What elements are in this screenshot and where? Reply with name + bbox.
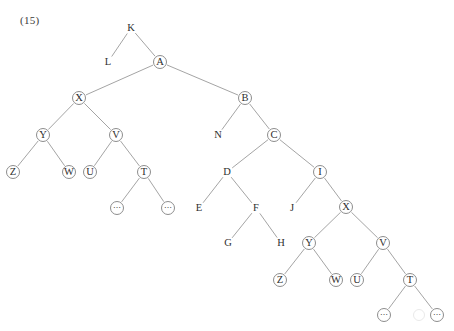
tree-node-c: C xyxy=(267,128,281,142)
tree-node-z2: Z xyxy=(273,273,287,287)
tree-node-label: W xyxy=(331,274,341,285)
tree-edge-x1-v1 xyxy=(85,104,111,130)
tree-node-label: D xyxy=(223,166,231,177)
tree-edge-a-x1 xyxy=(86,65,152,95)
tree-node-label: L xyxy=(105,56,111,67)
tree-edge-v1-u1 xyxy=(95,142,112,166)
tree-edge-x1-y1 xyxy=(49,104,74,130)
tree-edge-c-i xyxy=(280,140,314,167)
tree-edge-c-d xyxy=(233,140,268,168)
tree-edge-k-l xyxy=(112,34,127,56)
tree-node-j: J xyxy=(284,201,300,215)
tree-node-x2: X xyxy=(339,200,353,214)
tree-node-label: E xyxy=(196,202,202,213)
tree-node-h: H xyxy=(273,236,289,250)
tree-node-u1: U xyxy=(83,165,97,179)
tree-node-v2: V xyxy=(376,236,390,250)
tree-edge-t1-dot1 xyxy=(122,178,139,201)
tree-edge-f-g xyxy=(232,213,251,237)
tree-node-label: U xyxy=(86,166,94,177)
tree-node-w2: W xyxy=(329,273,343,287)
tree-node-label: Z xyxy=(277,274,283,285)
tree-edge-y2-w2 xyxy=(314,249,332,273)
tree-node-dot1: ⋯ xyxy=(110,201,124,215)
tree-node-label: B xyxy=(241,92,248,103)
tree-node-label: Z xyxy=(10,166,16,177)
tree-node-dot2: ⋯ xyxy=(161,201,175,215)
tree-node-dot4: ⋯ xyxy=(430,308,444,322)
tree-edge-b-n xyxy=(222,104,240,129)
tree-edge-v2-t2 xyxy=(388,249,406,273)
tree-node-u2: U xyxy=(350,273,364,287)
tree-diagram-figure: (15) KLAXBYVNCZWUTDI⋯⋯EFJXGHYVZWUT⋯⋯ xyxy=(0,0,454,331)
tree-node-n: N xyxy=(210,128,226,142)
tree-node-label: Y xyxy=(305,237,313,248)
tree-node-label: Y xyxy=(39,129,47,140)
tree-node-label: X xyxy=(342,201,350,212)
tree-node-label: ⋯ xyxy=(380,311,388,319)
tree-edge-b-c xyxy=(250,104,269,128)
tree-node-a: A xyxy=(153,55,167,69)
tree-edge-y1-w1 xyxy=(48,142,65,166)
tree-node-t2: T xyxy=(403,273,417,287)
tree-node-v1: V xyxy=(109,128,123,142)
tree-node-x1: X xyxy=(72,91,86,105)
tree-edge-d-f xyxy=(231,177,251,202)
tree-edge-v2-u2 xyxy=(362,250,379,274)
tree-node-label: T xyxy=(407,274,413,285)
tree-edge-k-a xyxy=(136,33,155,56)
tree-node-b: B xyxy=(238,91,252,105)
tree-node-w1: W xyxy=(62,165,76,179)
tree-node-label: I xyxy=(318,166,322,177)
tree-node-label: C xyxy=(270,129,277,140)
tree-node-t1: T xyxy=(137,165,151,179)
tree-node-label: X xyxy=(75,92,83,103)
tree-node-label: U xyxy=(353,274,361,285)
tree-node-label: V xyxy=(112,129,120,140)
tree-node-label: V xyxy=(379,237,387,248)
tree-edge-f-h xyxy=(260,214,277,238)
tree-node-d: D xyxy=(219,165,235,179)
tree-node-label: F xyxy=(253,202,259,213)
tree-edge-x2-v2 xyxy=(352,213,378,238)
tree-node-k: K xyxy=(123,21,139,35)
tree-edge-i-j xyxy=(296,178,315,202)
tree-edge-y1-z1 xyxy=(18,141,38,166)
tree-node-label: ⋯ xyxy=(164,204,172,212)
tree-node-e: E xyxy=(191,201,207,215)
tree-node-label: ⋯ xyxy=(433,311,441,319)
tree-node-y1: Y xyxy=(36,128,50,142)
tree-node-label: A xyxy=(156,56,164,67)
tree-node-label: T xyxy=(141,166,147,177)
tree-node-f: F xyxy=(248,201,264,215)
tree-node-dot3: ⋯ xyxy=(377,308,391,322)
tree-edge-d-e xyxy=(203,178,222,203)
tree-node-label: G xyxy=(224,237,232,248)
tree-node-i: I xyxy=(313,165,327,179)
tree-edge-x2-y2 xyxy=(315,213,341,238)
tree-node-y2: Y xyxy=(302,236,316,250)
tree-node-g: G xyxy=(220,236,236,250)
scan-smudge xyxy=(413,309,425,321)
tree-node-label: N xyxy=(214,129,222,140)
tree-node-label: K xyxy=(127,22,135,33)
tree-node-label: J xyxy=(290,202,294,213)
tree-edge-i-x2 xyxy=(325,178,341,200)
tree-node-label: ⋯ xyxy=(113,204,121,212)
tree-edge-y2-z2 xyxy=(285,249,304,273)
tree-edge-t2-dot4 xyxy=(415,286,432,308)
tree-edge-t2-dot3 xyxy=(389,286,405,308)
tree-node-l: L xyxy=(100,55,116,69)
tree-edge-t1-dot2 xyxy=(148,179,163,202)
tree-edge-a-b xyxy=(167,65,237,95)
tree-node-label: W xyxy=(64,166,74,177)
tree-node-label: H xyxy=(277,237,285,248)
tree-edge-v1-t1 xyxy=(121,141,139,165)
tree-node-z1: Z xyxy=(6,165,20,179)
